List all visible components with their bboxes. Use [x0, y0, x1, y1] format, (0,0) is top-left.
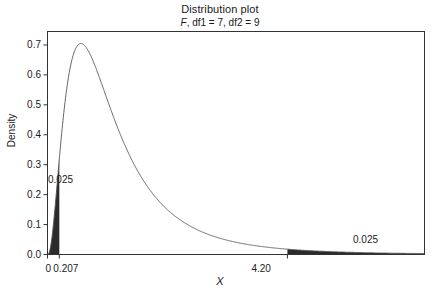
- y-tick-label-5: 0.5: [5, 99, 41, 110]
- y-tick-label-4: 0.4: [5, 129, 41, 140]
- lower-tail-probability-label: 0.025: [48, 174, 73, 185]
- y-tick-label-2: 0.2: [5, 189, 41, 200]
- x-tick-label-1: 0.207: [53, 263, 78, 274]
- y-tick-label-6: 0.6: [5, 69, 41, 80]
- density-curve: [48, 43, 425, 254]
- x-tick-label-2: 4.20: [251, 263, 270, 274]
- x-tick-label-0: 0: [46, 263, 52, 274]
- x-axis-title: X: [0, 275, 440, 287]
- y-tick-label-3: 0.3: [5, 159, 41, 170]
- distribution-plot-figure: Distribution plot F, df1 = 7, df2 = 9 De…: [0, 0, 440, 295]
- plot-frame: [48, 32, 425, 255]
- plot-canvas: [0, 0, 440, 295]
- upper-tail-probability-label: 0.025: [353, 234, 378, 245]
- y-tick-label-7: 0.7: [5, 39, 41, 50]
- y-tick-label-1: 0.1: [5, 219, 41, 230]
- y-tick-label-0: 0.0: [5, 249, 41, 260]
